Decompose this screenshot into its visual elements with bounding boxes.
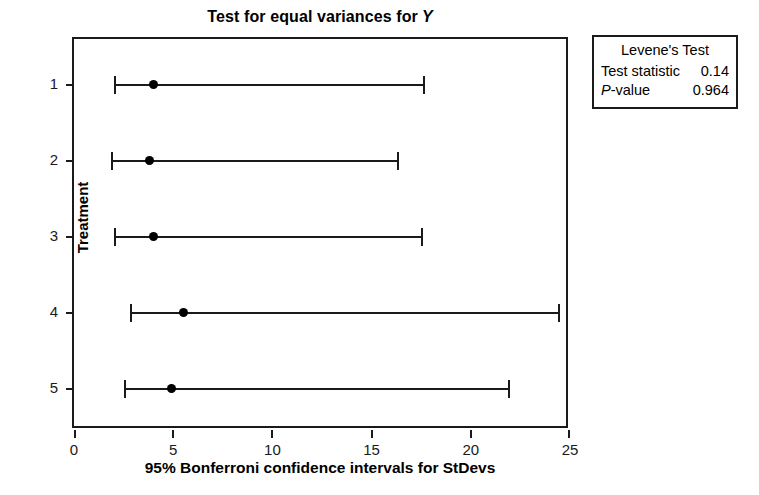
y-axis-tick-label: 2 (24, 151, 58, 168)
stdev-point-marker (149, 232, 158, 241)
x-axis-tick-label: 20 (446, 441, 496, 458)
x-axis-tick-label: 10 (247, 441, 297, 458)
y-axis-tick (66, 236, 74, 238)
stdev-point-marker (179, 308, 188, 317)
confidence-interval-lower-cap (114, 228, 116, 246)
y-axis-tick (66, 160, 74, 162)
levene-test-legend: Levene's Test Test statistic 0.14 P-valu… (592, 35, 738, 109)
x-axis-tick-label: 5 (148, 441, 198, 458)
y-axis-tick (66, 312, 74, 314)
x-axis-tick (470, 430, 472, 438)
confidence-interval-line (130, 312, 561, 314)
interval-row (74, 148, 566, 174)
y-axis-title: Treatment (74, 153, 91, 283)
interval-row (74, 224, 566, 250)
legend-row-p-value: P-value 0.964 (601, 81, 729, 100)
chart-title-text: Test for equal variances for (207, 8, 418, 25)
confidence-interval-lower-cap (111, 152, 113, 170)
confidence-interval-upper-cap (558, 304, 560, 322)
y-axis-tick-label: 4 (24, 303, 58, 320)
confidence-interval-upper-cap (423, 76, 425, 94)
legend-label-p-value: P-value (601, 81, 650, 100)
x-axis-tick (74, 430, 76, 438)
confidence-interval-lower-cap (114, 76, 116, 94)
y-axis-tick-label: 3 (24, 227, 58, 244)
stdev-point-marker (167, 384, 176, 393)
interval-row (74, 72, 566, 98)
legend-label-test-statistic: Test statistic (601, 62, 680, 81)
y-axis-tick-label: 1 (24, 75, 58, 92)
plot-area (74, 39, 566, 426)
confidence-interval-line (114, 84, 425, 86)
plot-frame: Treatment 123450510152025 (72, 37, 568, 428)
y-axis-tick (66, 388, 74, 390)
interval-row (74, 376, 566, 402)
confidence-interval-line (124, 388, 511, 390)
confidence-interval-lower-cap (130, 304, 132, 322)
confidence-interval-line (114, 236, 424, 238)
legend-row-test-statistic: Test statistic 0.14 (601, 62, 729, 81)
chart-page: Test for equal variances forY Treatment … (0, 0, 759, 495)
x-axis-tick (371, 430, 373, 438)
x-axis-title: 95% Bonferroni confidence intervals for … (72, 459, 568, 477)
x-axis-tick (568, 430, 570, 438)
interval-row (74, 300, 566, 326)
legend-value-test-statistic: 0.14 (701, 62, 729, 81)
confidence-interval-line (111, 160, 400, 162)
x-axis-tick (172, 430, 174, 438)
confidence-interval-upper-cap (421, 228, 423, 246)
confidence-interval-lower-cap (124, 380, 126, 398)
x-axis-tick-label: 25 (545, 441, 595, 458)
y-axis-tick-label: 5 (24, 379, 58, 396)
x-axis-tick (271, 430, 273, 438)
legend-value-p-value: 0.964 (693, 81, 729, 100)
legend-title: Levene's Test (601, 42, 729, 58)
legend-label-p-italic: P (601, 82, 611, 98)
chart-title-variable: Y (418, 8, 433, 25)
confidence-interval-upper-cap (397, 152, 399, 170)
chart-title: Test for equal variances forY (72, 8, 568, 26)
confidence-interval-upper-cap (508, 380, 510, 398)
x-axis-tick-label: 0 (49, 441, 99, 458)
stdev-point-marker (145, 156, 154, 165)
y-axis-tick (66, 84, 74, 86)
legend-label-p-suffix: -value (611, 82, 651, 98)
x-axis-tick-label: 15 (347, 441, 397, 458)
stdev-point-marker (149, 80, 158, 89)
